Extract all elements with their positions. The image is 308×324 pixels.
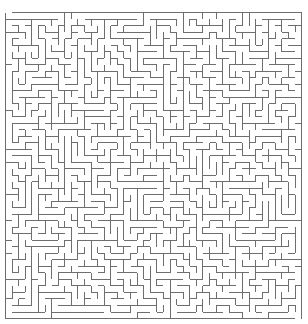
maze-walls	[6, 13, 302, 319]
maze-grid[interactable]	[0, 0, 308, 324]
